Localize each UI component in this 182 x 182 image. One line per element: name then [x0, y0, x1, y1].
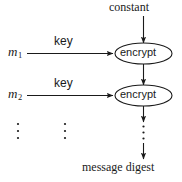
message-label-2-base: m	[8, 86, 17, 101]
diagram-canvas: constant encrypt encrypt key key m1 m2 m…	[0, 0, 182, 182]
vertical-ellipsis-keys-icon	[64, 123, 66, 139]
message-label-1: m1	[8, 45, 22, 58]
message-label-2: m2	[8, 87, 22, 100]
vertical-ellipsis-chain-icon	[142, 125, 144, 139]
encrypt-label-1: encrypt	[120, 47, 156, 58]
message-label-1-subscript: 1	[18, 50, 22, 60]
vertical-ellipsis-messages-icon	[17, 123, 19, 139]
key-label-1: key	[54, 35, 73, 47]
message-label-2-subscript: 2	[18, 92, 22, 102]
encrypt-label-2: encrypt	[120, 89, 156, 100]
key-label-2: key	[54, 77, 73, 89]
message-label-1-base: m	[8, 44, 17, 59]
constant-label: constant	[109, 1, 149, 13]
message-digest-label: message digest	[82, 161, 154, 173]
